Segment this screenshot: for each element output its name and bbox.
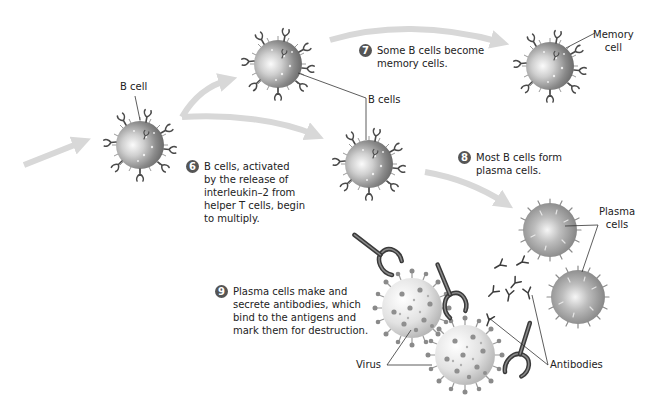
step-badge-9: 9 <box>215 285 228 298</box>
arrow-into-b-cell <box>24 142 82 165</box>
b-cell-upper <box>242 29 314 100</box>
step-6: 6 B cells, activated by the release of i… <box>186 160 386 230</box>
free-antibodies <box>483 256 533 327</box>
label-virus: Virus <box>356 358 381 371</box>
arrow-to-upper-b-cell <box>182 80 228 117</box>
arrow-to-memory-cell <box>330 29 500 42</box>
step-text-9: Plasma cells make and secrete antibodies… <box>233 285 368 337</box>
step-badge-8: 8 <box>458 151 471 164</box>
label-antibodies: Antibodies <box>550 358 603 371</box>
label-plasma-cells: Plasma cells <box>599 205 635 231</box>
virus-particle-lower <box>426 316 505 395</box>
label-b-cell: B cell <box>120 80 147 93</box>
step-8: 8 Most B cells form plasma cells. <box>458 151 658 181</box>
step-badge-7: 7 <box>359 44 372 57</box>
label-b-cells: B cells <box>368 93 400 106</box>
b-cell-initial <box>104 110 176 181</box>
plasma-cell-lower <box>547 266 609 328</box>
plasma-cell-upper <box>519 199 581 261</box>
label-memory-cell: Memory cell <box>593 28 634 54</box>
step-9: 9 Plasma cells make and secrete antibodi… <box>215 285 415 345</box>
step-7: 7 Some B cells become memory cells. <box>359 44 559 74</box>
arrow-to-lower-b-cell <box>182 116 315 135</box>
step-text-7: Some B cells become memory cells. <box>377 44 484 70</box>
step-text-6: B cells, activated by the release of int… <box>204 160 305 225</box>
step-badge-6: 6 <box>186 160 199 173</box>
leader-b-cell <box>135 96 140 120</box>
step-text-8: Most B cells form plasma cells. <box>476 151 562 177</box>
